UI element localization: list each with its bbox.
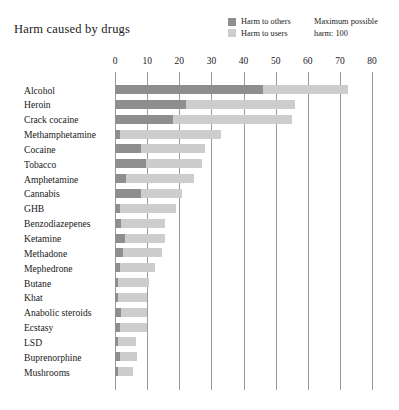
x-tick-label-60: 60: [303, 56, 313, 66]
x-tick-label-50: 50: [271, 56, 281, 66]
category-label: Ketamine: [0, 234, 110, 244]
category-label: Benzodiazepenes: [0, 219, 110, 229]
gridline-40: [244, 78, 245, 390]
category-label: LSD: [0, 338, 110, 348]
bar-segment-harm-to-users: [118, 278, 149, 287]
bar-segment-harm-to-users: [123, 248, 162, 257]
bar-segment-harm-to-users: [186, 100, 295, 109]
tick-mark-10: [147, 72, 148, 78]
tick-mark-70: [340, 72, 341, 78]
bar-segment-harm-to-users: [121, 219, 164, 228]
bar-segment-harm-to-users: [120, 130, 221, 139]
legend-label-harm-to-users: Harm to users: [241, 28, 288, 40]
x-tick-label-80: 80: [367, 56, 377, 66]
tick-mark-30: [211, 72, 212, 78]
legend-swatch-harm-to-others: [228, 18, 236, 26]
bar-segment-harm-to-others: [115, 234, 125, 243]
category-axis-labels: AlcoholHeroinCrack cocaineMethamphetamin…: [0, 78, 110, 390]
bar-segment-harm-to-others: [115, 174, 126, 183]
category-label: Alcohol: [0, 86, 110, 96]
legend-item-harm-to-users: Harm to users: [228, 28, 291, 40]
gridline-30: [211, 78, 212, 390]
tick-mark-0: [115, 72, 116, 78]
legend-label-harm-to-others: Harm to others: [241, 16, 291, 28]
bar-row: [115, 308, 147, 317]
plot-area: 01020304050607080: [115, 78, 372, 390]
bar-row: [115, 219, 165, 228]
category-label: Methadone: [0, 249, 110, 259]
bar-row: [115, 337, 136, 346]
bar-row: [115, 248, 162, 257]
tick-mark-40: [244, 72, 245, 78]
bar-segment-harm-to-users: [118, 367, 132, 376]
bar-segment-harm-to-users: [120, 263, 155, 272]
x-tick-label-30: 30: [207, 56, 217, 66]
category-label: Butane: [0, 279, 110, 289]
bar-row: [115, 352, 137, 361]
bar-row: [115, 278, 149, 287]
bar-segment-harm-to-others: [115, 189, 141, 198]
tick-mark-20: [179, 72, 180, 78]
category-label: Heroin: [0, 100, 110, 110]
gridline-60: [308, 78, 309, 390]
bar-segment-harm-to-users: [120, 204, 176, 213]
bar-segment-harm-to-users: [146, 159, 202, 168]
bar-segment-harm-to-users: [263, 85, 348, 94]
bar-segment-harm-to-users: [141, 189, 183, 198]
category-label: Anabolic steroids: [0, 308, 110, 318]
bar-segment-harm-to-users: [121, 308, 147, 317]
x-tick-label-70: 70: [335, 56, 345, 66]
maximum-harm-note-line1: Maximum possible: [314, 16, 392, 28]
category-label: Buprenorphine: [0, 353, 110, 363]
category-label: GHB: [0, 204, 110, 214]
bar-row: [115, 323, 147, 332]
bar-segment-harm-to-users: [173, 115, 292, 124]
category-label: Mephedrone: [0, 264, 110, 274]
category-label: Cocaine: [0, 145, 110, 155]
tick-mark-80: [372, 72, 373, 78]
bar-segment-harm-to-others: [115, 85, 263, 94]
category-label: Cannabis: [0, 189, 110, 199]
bar-segment-harm-to-users: [120, 352, 138, 361]
bar-row: [115, 293, 147, 302]
bar-row: [115, 234, 165, 243]
harm-by-drugs-chart: Harm caused by drugs Harm to others Harm…: [0, 0, 399, 410]
bar-segment-harm-to-users: [118, 337, 136, 346]
bar-segment-harm-to-others: [115, 144, 141, 153]
category-label: Crack cocaine: [0, 115, 110, 125]
bar-segment-harm-to-users: [125, 234, 165, 243]
bar-row: [115, 159, 202, 168]
category-label: Ecstasy: [0, 323, 110, 333]
bar-segment-harm-to-users: [141, 144, 205, 153]
bar-row: [115, 263, 155, 272]
gridline-80: [372, 78, 373, 390]
bar-row: [115, 85, 348, 94]
category-label: Tobacco: [0, 160, 110, 170]
chart-title: Harm caused by drugs: [14, 22, 130, 37]
bar-row: [115, 174, 194, 183]
x-tick-label-40: 40: [239, 56, 249, 66]
bar-segment-harm-to-others: [115, 100, 186, 109]
bar-row: [115, 189, 182, 198]
gridline-70: [340, 78, 341, 390]
bar-segment-harm-to-others: [115, 159, 146, 168]
gridline-50: [276, 78, 277, 390]
bar-segment-harm-to-others: [115, 115, 173, 124]
maximum-harm-note: Maximum possible harm: 100: [314, 16, 392, 39]
tick-mark-50: [276, 72, 277, 78]
bar-segment-harm-to-users: [118, 293, 147, 302]
tick-mark-60: [308, 72, 309, 78]
category-label: Amphetamine: [0, 175, 110, 185]
category-label: Mushrooms: [0, 368, 110, 378]
gridline-20: [179, 78, 180, 390]
legend-swatch-harm-to-users: [228, 29, 236, 37]
bar-row: [115, 367, 133, 376]
legend-item-harm-to-others: Harm to others: [228, 16, 291, 28]
bar-row: [115, 100, 295, 109]
bar-row: [115, 115, 292, 124]
x-tick-label-20: 20: [175, 56, 185, 66]
bar-row: [115, 130, 221, 139]
bar-row: [115, 144, 205, 153]
bar-segment-harm-to-users: [120, 323, 147, 332]
bar-segment-harm-to-users: [126, 174, 193, 183]
